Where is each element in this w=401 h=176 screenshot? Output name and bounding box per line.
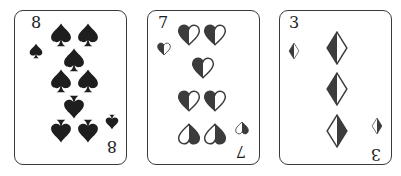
card-rank-bottom: 3 [371, 146, 381, 162]
diamond-icon [326, 114, 348, 148]
spade-icon [77, 118, 99, 143]
heart-icon [204, 123, 227, 145]
spade-icon [50, 118, 72, 143]
card-rank-bottom: 8 [107, 138, 117, 154]
heart-icon [204, 90, 227, 112]
spade-icon [63, 94, 85, 119]
spade-icon [105, 114, 119, 130]
heart-icon [204, 24, 227, 46]
spade-icon [29, 43, 43, 59]
card-8-of-spades[interactable]: 88 [14, 10, 127, 165]
spade-icon [77, 68, 99, 93]
diamond-icon [372, 117, 383, 134]
heart-icon [235, 121, 249, 134]
spade-icon [50, 68, 72, 93]
diamond-icon [289, 42, 300, 59]
card-rank-top: 8 [31, 15, 41, 31]
heart-icon [178, 24, 201, 46]
heart-icon [178, 123, 201, 145]
diamond-icon [326, 31, 348, 65]
card-rank-top: 3 [289, 15, 299, 31]
diamond-icon [326, 72, 348, 106]
card-3-of-diamonds[interactable]: 33 [279, 10, 392, 165]
card-7-of-hearts[interactable]: 77 [147, 10, 260, 165]
heart-icon [192, 57, 215, 79]
card-rank-bottom: 7 [236, 143, 246, 159]
heart-icon [178, 90, 201, 112]
spade-icon [50, 22, 72, 47]
spade-icon [77, 22, 99, 47]
card-rank-top: 7 [158, 15, 168, 31]
heart-icon [157, 42, 171, 55]
